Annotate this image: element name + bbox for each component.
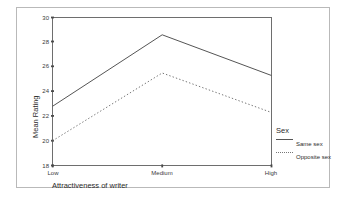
x-tick-label-low: Low (47, 170, 58, 176)
x-tick-label-high: High (265, 170, 277, 176)
x-axis-title: Attractiveness of writer (52, 182, 128, 190)
y-tick-label-20: 20 (36, 138, 49, 144)
y-axis-title: Mean Rating (32, 95, 40, 138)
legend-label-opposite-sex: Opposite sex (296, 154, 331, 160)
series-line-same-sex (53, 35, 272, 107)
x-tick-label-medium: Medium (151, 170, 172, 176)
legend-item-same-sex[interactable]: Same sex (276, 137, 342, 150)
y-tick-label-18: 18 (36, 163, 49, 169)
legend-label-same-sex: Same sex (296, 141, 323, 147)
y-tick-label-28: 28 (36, 39, 49, 45)
y-tick-label-24: 24 (36, 88, 49, 94)
line-chart: 30 28 26 24 22 20 18 Low Medium High Mea… (0, 0, 347, 210)
series-line-opposite-sex (53, 73, 272, 141)
legend-title: Sex (276, 127, 342, 135)
chart-screenshot: 30 28 26 24 22 20 18 Low Medium High Mea… (0, 0, 347, 210)
legend-swatch-dotted-line (276, 152, 293, 154)
legend-swatch-solid-line (276, 139, 293, 141)
legend-item-opposite-sex[interactable]: Opposite sex (276, 150, 342, 163)
plot-frame (53, 17, 273, 166)
chart-plot-svg (0, 0, 347, 210)
y-tick-label-30: 30 (36, 15, 49, 21)
legend: Sex Same sex Opposite sex (276, 127, 342, 163)
y-tick-label-26: 26 (36, 63, 49, 69)
